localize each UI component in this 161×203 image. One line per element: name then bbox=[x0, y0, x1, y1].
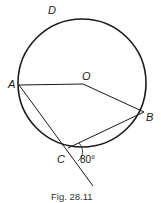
geometry-diagram: D A O B C 80° Fig. 28.11 bbox=[0, 0, 161, 203]
label-O: O bbox=[82, 70, 91, 82]
label-C: C bbox=[57, 153, 65, 165]
line-AC-extended bbox=[19, 85, 93, 186]
label-B: B bbox=[146, 111, 153, 123]
circle bbox=[18, 19, 146, 147]
segment-OB bbox=[83, 84, 144, 112]
figure-caption: Fig. 28.11 bbox=[51, 191, 93, 202]
angle-label: 80° bbox=[80, 154, 95, 165]
label-D: D bbox=[48, 4, 56, 16]
segment-AO bbox=[19, 84, 83, 85]
label-A: A bbox=[7, 78, 15, 90]
